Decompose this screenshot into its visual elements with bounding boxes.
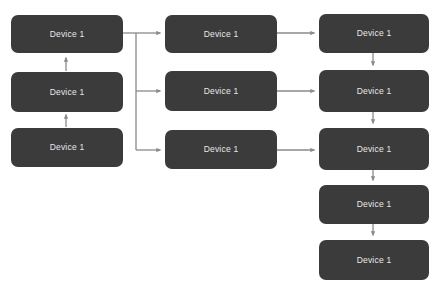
device-node-label: Device 1: [204, 30, 239, 39]
device-node-label: Device 1: [357, 87, 392, 96]
device-node-label: Device 1: [357, 145, 392, 154]
device-node[interactable]: Device 1: [11, 128, 123, 167]
device-node-label: Device 1: [50, 30, 85, 39]
device-node-label: Device 1: [357, 29, 392, 38]
device-node[interactable]: Device 1: [11, 72, 123, 112]
device-node-label: Device 1: [357, 256, 392, 265]
device-node-label: Device 1: [204, 87, 239, 96]
device-node[interactable]: Device 1: [165, 71, 277, 111]
device-node[interactable]: Device 1: [165, 130, 277, 169]
device-node[interactable]: Device 1: [165, 15, 277, 53]
device-node-label: Device 1: [50, 143, 85, 152]
device-node[interactable]: Device 1: [319, 70, 429, 112]
diagram-canvas: Device 1 Device 1 Device 1 Device 1 Devi…: [0, 0, 441, 290]
device-node-label: Device 1: [50, 88, 85, 97]
device-node[interactable]: Device 1: [319, 128, 429, 170]
device-node-label: Device 1: [357, 200, 392, 209]
device-node-label: Device 1: [204, 145, 239, 154]
device-node[interactable]: Device 1: [319, 185, 429, 224]
device-node[interactable]: Device 1: [319, 240, 429, 280]
device-node[interactable]: Device 1: [319, 14, 429, 53]
device-node[interactable]: Device 1: [11, 15, 123, 53]
